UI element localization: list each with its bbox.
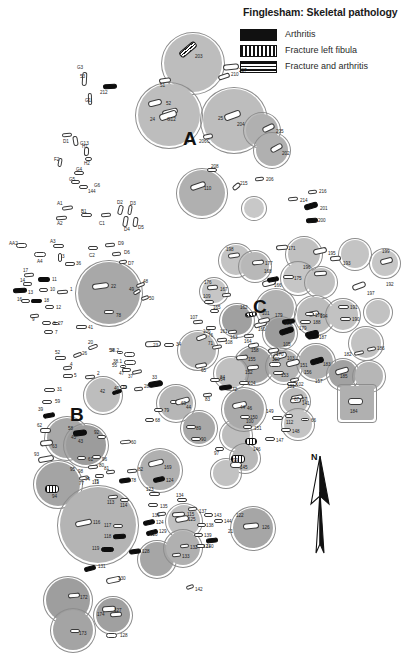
grave-label: 82 [138, 468, 143, 473]
grave-C1 [101, 213, 111, 218]
grave-label: 144 [88, 190, 96, 195]
grave-label: C2 [89, 254, 95, 259]
grave-label: 112 [286, 421, 293, 426]
grave-label: 132 [190, 546, 198, 551]
grave-142 [186, 584, 195, 590]
grave-label: 24 [150, 118, 155, 123]
grave-label: 78 [116, 314, 121, 319]
grave-label: 164 [244, 340, 252, 345]
grave-71 [212, 344, 223, 350]
grave-label: 185 [340, 375, 348, 380]
grave-38.1 [124, 360, 136, 365]
grave-label: 145 [240, 466, 248, 471]
grave-131 [84, 565, 97, 573]
grave-label: 114 [120, 504, 127, 509]
grave-147 [265, 437, 275, 441]
grave-label: 133 [182, 555, 190, 560]
grave-32b [55, 356, 66, 360]
grave-label: 162 [240, 306, 248, 311]
grave-label: 180 [272, 358, 280, 363]
grave-D9 [105, 243, 115, 248]
grave-label: 50 [149, 297, 154, 302]
grave-label: 65 [201, 369, 206, 374]
grave-label: 147 [276, 439, 284, 444]
grave-label: 190 [352, 318, 360, 323]
grave-label: 199 [382, 250, 390, 255]
grave-62 [40, 428, 51, 433]
grave-D2 [117, 205, 124, 216]
grave-12 [45, 305, 54, 309]
grave-D1 [62, 132, 72, 137]
grave-label: 165 [213, 306, 221, 311]
grave-C2 [88, 246, 98, 250]
grave-212 [103, 84, 117, 90]
grave-label: 44 [186, 406, 191, 411]
grave-18 [31, 299, 42, 303]
grave-label: 79 [164, 409, 169, 414]
grave-36 [65, 262, 75, 266]
grave-label: 124 [156, 521, 164, 526]
map-canvas: Finglesham: Skeletal pathology Arthritis… [0, 0, 413, 658]
grave-label: 148 [292, 430, 300, 435]
grave-label: 55 [112, 364, 117, 369]
grave-D4 [122, 216, 129, 228]
grave-label: 204 [237, 123, 245, 128]
grave-label: 14 [20, 279, 25, 284]
grave-label: 196 [303, 266, 311, 271]
grave-label: 138 [206, 524, 214, 529]
grave-label: 90 [201, 438, 206, 443]
grave-label: 127 [114, 609, 122, 614]
grave-139 [194, 533, 203, 537]
grave-G13 [72, 136, 79, 147]
grave-label: 202 [282, 152, 290, 157]
grave-label: 134 [176, 494, 184, 499]
grave-68 [145, 418, 154, 422]
grave-label: 205 [276, 130, 284, 135]
ring-ditch [348, 326, 384, 361]
grave-label: 170 [276, 353, 284, 358]
grave-label: 193 [343, 262, 351, 267]
grave-label: 135 [160, 505, 168, 510]
grave-label: 96 [102, 458, 107, 463]
grave-label: B1 [81, 210, 87, 215]
grave-96 [92, 455, 101, 459]
grave-label: 119 [92, 547, 99, 552]
grave-label: 192 [386, 283, 394, 288]
grave-label: 109 [203, 295, 211, 300]
grave-161 [228, 330, 237, 335]
grave-label: H1 [82, 145, 88, 150]
grave-label: 41 [88, 326, 93, 331]
grave-label: 99 [233, 459, 238, 464]
grave-label: 51 [160, 84, 165, 89]
grave-80 [88, 464, 98, 469]
grave-A1 [62, 205, 73, 210]
grave-label: 167 [220, 288, 228, 293]
grave-label: 4 [70, 363, 73, 368]
grave-label: 11 [52, 278, 57, 283]
grave-label: A2 [57, 222, 63, 227]
grave-label: 40 [114, 387, 119, 392]
grave-39 [43, 412, 56, 419]
grave-label: 83 [205, 398, 210, 403]
grave-89 [186, 425, 196, 429]
grave-171 [276, 245, 288, 251]
grave-label: 197 [367, 292, 375, 297]
grave-label: 33 [152, 376, 157, 381]
grave-label: 169 [164, 466, 172, 471]
grave-label: 63 [52, 445, 57, 450]
region-letter-B: B [70, 404, 84, 426]
grave-label: 195 [328, 252, 336, 257]
grave-10 [39, 288, 48, 292]
grave-label: 13 [28, 291, 33, 296]
grave-label: 12 [56, 306, 61, 311]
grave-A2 [56, 216, 67, 221]
grave-label: 124 [166, 479, 174, 484]
grave-label: 191 [350, 306, 358, 311]
legend-row-fracture: Fracture left fibula [240, 44, 413, 59]
grave-label: G12 [167, 118, 176, 123]
grave-112 [285, 414, 293, 418]
grave-178 [305, 312, 314, 316]
grave-207 [223, 63, 240, 71]
grave-label: A3 [50, 240, 56, 245]
grave-38.2 [124, 352, 135, 357]
